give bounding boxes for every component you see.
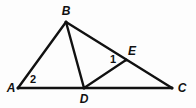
vertex-label-B: B (62, 5, 71, 17)
angle-label-1: 1 (110, 54, 116, 65)
segment-DE (84, 60, 126, 88)
vertex-point-c (171, 87, 174, 90)
vertex-point-e (125, 59, 128, 62)
vertex-label-C: C (178, 82, 187, 94)
angle-label-2: 2 (30, 74, 36, 85)
vertex-label-D: D (80, 93, 89, 105)
vertex-point-a (17, 87, 20, 90)
vertices-group (17, 21, 174, 90)
vertex-point-b (65, 21, 68, 24)
segments-group (18, 22, 172, 88)
vertex-point-d (83, 87, 86, 90)
vertex-label-A: A (7, 82, 16, 94)
figure-canvas (0, 0, 196, 108)
segment-AB (18, 22, 66, 88)
vertex-label-E: E (128, 45, 136, 57)
geometry-figure: ABCDE12 (0, 0, 196, 108)
